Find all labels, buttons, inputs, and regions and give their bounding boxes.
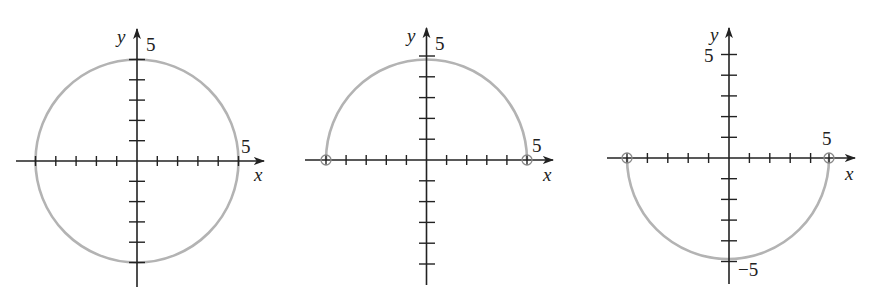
x-right-label: 5 bbox=[241, 136, 251, 157]
y-axis-label: y bbox=[708, 24, 719, 45]
y-bottom-label: −5 bbox=[738, 259, 758, 280]
lower-semicircle-curve bbox=[627, 158, 829, 259]
x-right-label: 5 bbox=[822, 128, 832, 149]
graph-lower-semicircle: y 5 5 x −5 bbox=[607, 24, 855, 284]
x-axis-label: x bbox=[542, 164, 552, 185]
y-top-label: 5 bbox=[435, 33, 445, 54]
y-top-label: 5 bbox=[146, 34, 156, 55]
y-axis-label: y bbox=[115, 26, 126, 47]
graph-full-circle: y 5 5 x bbox=[16, 26, 264, 287]
graph-upper-semicircle: y 5 5 x bbox=[305, 25, 553, 285]
x-axis-label: x bbox=[253, 164, 263, 185]
graphs-canvas: y 5 5 x bbox=[0, 0, 869, 307]
y-axis-label: y bbox=[405, 25, 416, 46]
y-top-label: 5 bbox=[704, 45, 714, 66]
x-right-label: 5 bbox=[532, 135, 542, 156]
x-axis-label: x bbox=[844, 163, 854, 184]
